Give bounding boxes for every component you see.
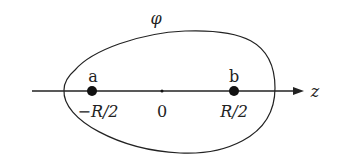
axis-label-z: z	[310, 82, 320, 101]
diagram-canvas: φ a b z −R/2 0 R/2	[0, 0, 339, 163]
point-b-label: b	[229, 67, 239, 86]
origin-dot	[161, 90, 164, 93]
curve-label-phi: φ	[150, 9, 162, 28]
position-label-b: R/2	[219, 102, 248, 121]
point-a	[87, 86, 97, 96]
position-label-a: −R/2	[77, 102, 118, 121]
z-axis-arrowhead-icon	[293, 87, 304, 95]
point-a-label: a	[88, 67, 98, 86]
origin-label: 0	[157, 102, 167, 121]
point-b	[229, 86, 239, 96]
